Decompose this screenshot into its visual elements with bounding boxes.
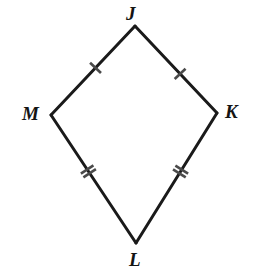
vertex-label-j: J (126, 4, 136, 23)
kite-sides (51, 26, 217, 243)
kite-diagram (0, 0, 259, 274)
kite-side-jk (135, 26, 217, 113)
kite-side-ml (51, 115, 136, 243)
vertex-label-m: M (22, 104, 39, 123)
kite-side-jm (51, 26, 135, 115)
vertex-label-k: K (225, 102, 238, 121)
vertex-label-l: L (129, 250, 141, 269)
kite-side-kl (136, 113, 217, 243)
congruence-tick-marks (81, 63, 188, 178)
geometry-figure: J K L M (0, 0, 259, 274)
